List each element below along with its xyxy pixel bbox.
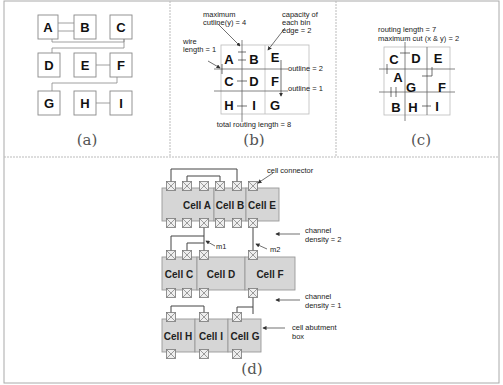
bin-d: D [249,74,258,89]
bin-e: E [271,50,280,65]
caption-a: (a) [77,131,98,149]
channel-density-1: density = 1 [305,301,341,310]
block-h: H [80,96,89,111]
caption-d: (d) [241,360,262,378]
cell-b: Cell B [216,200,244,211]
block-a: A [43,20,53,35]
bin-f: F [271,74,279,89]
capacity-label-3: edge = 2 [282,26,311,35]
c-label-e: E [434,51,443,66]
cell-a: Cell A [183,200,211,211]
outline-1-label: outline = 1 [288,84,323,93]
routing-length-label: routing length = 7 [378,25,436,34]
c-label-d: D [411,51,420,66]
caption-c: (c) [411,131,431,149]
max-cut-label: maximum cut (x & y) = 2 [378,34,459,43]
bin-b: B [249,52,258,67]
c-label-g: G [406,80,416,95]
block-i: I [119,96,123,111]
c-label-a: A [393,70,403,85]
bin-i: I [252,98,256,113]
outline-2-label: outline = 2 [288,64,323,73]
c-label-f: F [438,80,446,95]
c-label-b: B [391,100,400,115]
bin-g: G [270,98,280,113]
max-cutline-value: cutline(y) = 4 [203,18,246,27]
cell-h: Cell H [164,331,192,342]
block-f: F [117,58,125,73]
cell-i: Cell I [199,331,223,342]
block-g: G [44,96,54,111]
block-b: B [80,20,89,35]
c-label-h: H [408,100,417,115]
block-e: E [81,58,90,73]
caption-b: (b) [243,131,264,149]
cell-abutment-label-2: box [292,332,304,341]
m1-label: m1 [216,242,226,251]
figure: A B C D E F G H I (a) [0,0,503,385]
channel-density-2: density = 2 [305,235,341,244]
wire-label-2: length = 1 [183,45,216,54]
cell-f: Cell F [256,269,283,280]
block-c: C [116,20,126,35]
bin-h: H [224,98,233,113]
cell-e: Cell E [248,200,276,211]
cell-d: Cell D [207,269,235,280]
bin-c: C [224,74,234,89]
c-label-c: C [389,52,399,67]
channel-label-2: channel [305,292,332,301]
cell-connector-label: cell connector [267,166,314,175]
cell-abutment-label-1: cell abutment [292,323,338,332]
block-d: D [44,58,53,73]
total-length-label: total routing length = 8 [217,120,291,129]
c-label-i: I [435,99,439,114]
cell-g: Cell G [231,331,260,342]
bin-a: A [224,52,234,67]
channel-label-1: channel [305,226,332,235]
m2-label: m2 [270,245,280,254]
cell-c: Cell C [165,269,193,280]
